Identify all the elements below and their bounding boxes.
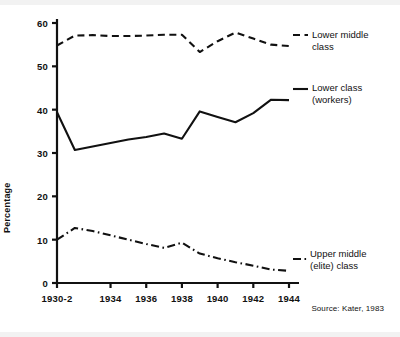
y-tick-label: 30 (37, 148, 48, 159)
series-line (57, 100, 289, 150)
x-tick-label: 1934 (100, 293, 122, 304)
page-bottom-band (0, 332, 400, 337)
series-label-lower-class: Lower class (workers) (312, 82, 362, 105)
x-tick-label: 1940 (207, 293, 229, 304)
series-label-line-2: (workers) (312, 94, 362, 106)
y-tick-label: 60 (37, 18, 48, 29)
series-label-upper-middle-class: Upper middle (elite) class (310, 248, 367, 271)
series-label-line-2: (elite) class (310, 260, 367, 272)
series-label-line-1: Upper middle (310, 248, 367, 260)
x-tick-label: 1938 (171, 293, 193, 304)
x-tick-label: 1936 (135, 293, 157, 304)
x-tick-label: 1942 (242, 293, 264, 304)
series-label-line-1: Lower class (312, 82, 362, 94)
series-label-line-2: class (312, 41, 369, 53)
source-note: Source: Kater, 1983 (311, 304, 384, 313)
y-tick-label: 20 (37, 191, 48, 202)
series-line (57, 228, 289, 271)
data-series-group (57, 33, 308, 271)
x-tick-label: 1930-2 (42, 293, 73, 304)
line-chart-figure: Percentage 0102030405060 1930-2193419361… (0, 5, 400, 332)
plot-area (0, 5, 400, 332)
y-tick-label: 50 (37, 61, 48, 72)
y-axis-title: Percentage (2, 182, 12, 233)
chart-page: Percentage 0102030405060 1930-2193419361… (0, 0, 400, 337)
y-tick-label: 0 (43, 278, 48, 289)
y-tick-label: 40 (37, 104, 48, 115)
series-label-line-1: Lower middle (312, 29, 369, 41)
y-tick-label: 10 (37, 234, 48, 245)
series-label-lower-middle-class: Lower middle class (312, 29, 369, 52)
axes (52, 19, 299, 288)
x-tick-label: 1944 (278, 293, 300, 304)
series-line (57, 33, 289, 53)
